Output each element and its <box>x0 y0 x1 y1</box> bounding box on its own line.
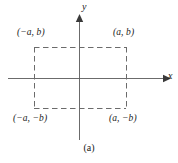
coordinate-plane-graphic <box>0 0 178 163</box>
vertex-label-top-left: (−a, b) <box>17 27 45 37</box>
vertex-label-bottom-left: (−a, −b) <box>13 113 47 123</box>
y-axis-label: y <box>82 1 86 12</box>
vertex-label-top-right: (a, b) <box>113 27 134 37</box>
figure-container: (−a, b) (a, b) (−a, −b) (a, −b) y x (a) <box>0 0 178 163</box>
vertex-label-bottom-right: (a, −b) <box>109 113 137 123</box>
arrowhead-up-icon <box>76 14 83 22</box>
figure-caption: (a) <box>0 142 178 153</box>
x-axis-label: x <box>168 70 172 81</box>
